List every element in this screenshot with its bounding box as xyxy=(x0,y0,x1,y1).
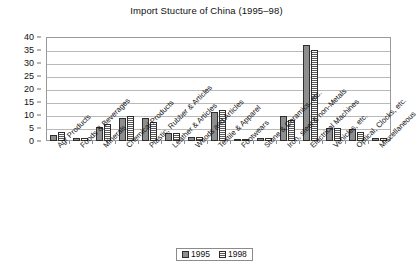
y-axis-tick-label: 30 xyxy=(24,59,34,68)
y-axis-tick-mark xyxy=(37,102,41,103)
chart-legend: 1995 1998 xyxy=(176,248,253,261)
y-axis-tick-mark xyxy=(37,50,41,51)
y-axis-tick-mark xyxy=(37,76,41,77)
chart-title: Import Stucture of China (1995–98) xyxy=(0,5,413,16)
x-axis: Agr ProductsFoods & BeveragesMineralsChe… xyxy=(0,141,413,241)
y-axis-tick-label: 40 xyxy=(24,33,34,42)
y-axis-tick-mark xyxy=(37,89,41,90)
legend-item-1998: 1998 xyxy=(219,250,247,259)
y-axis-tick-label: 25 xyxy=(24,72,34,81)
legend-label-1995: 1995 xyxy=(191,250,210,259)
y-axis: 0510152025303540 xyxy=(0,30,41,148)
y-axis-tick-label: 35 xyxy=(24,46,34,55)
y-axis-tick-mark xyxy=(37,37,41,38)
y-axis-tick-mark xyxy=(37,128,41,129)
legend-item-1995: 1995 xyxy=(182,250,210,259)
bar-group xyxy=(46,37,69,141)
legend-swatch-1995-icon xyxy=(182,251,189,258)
y-axis-tick-label: 10 xyxy=(24,111,34,120)
y-axis-tick-label: 5 xyxy=(29,124,34,133)
legend-label-1998: 1998 xyxy=(228,250,247,259)
y-axis-tick-mark xyxy=(37,115,41,116)
y-axis-tick-label: 20 xyxy=(24,85,34,94)
legend-swatch-1998-icon xyxy=(219,251,226,258)
y-axis-tick-mark xyxy=(37,63,41,64)
y-axis-tick-label: 15 xyxy=(24,98,34,107)
